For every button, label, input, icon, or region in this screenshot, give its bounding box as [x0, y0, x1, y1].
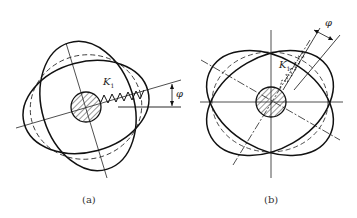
panel-b-drawing	[188, 28, 352, 178]
diagram-canvas	[0, 0, 357, 218]
angle-label-b: φ	[325, 18, 332, 28]
spring-k1-a	[101, 90, 144, 103]
caption-a: (a)	[82, 194, 96, 205]
angle-label-a: φ	[176, 89, 183, 99]
spring-label-b: K1	[279, 60, 290, 72]
hub-b	[256, 87, 286, 117]
spring-label-a: K1	[103, 77, 114, 89]
caption-b: (b)	[264, 194, 278, 205]
hub-a	[71, 92, 101, 122]
panel-a-drawing	[13, 29, 181, 182]
